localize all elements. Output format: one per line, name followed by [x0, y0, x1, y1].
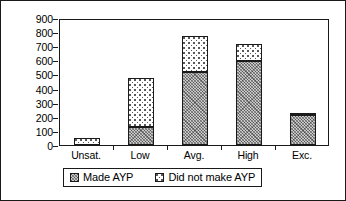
x-tick-label: High: [237, 149, 258, 161]
x-tick-mark: [221, 146, 222, 150]
bar-segment[interactable]: [236, 44, 262, 61]
y-tick-label: 700: [36, 42, 53, 53]
y-tick-label: 900: [36, 14, 53, 25]
plot-area: [59, 19, 329, 146]
bar-segment[interactable]: [182, 72, 208, 145]
y-tick-label: 400: [36, 84, 53, 95]
y-tick-mark: [53, 104, 58, 105]
bar-segment[interactable]: [290, 115, 316, 145]
x-tick-mark: [167, 146, 168, 150]
y-tick-mark: [53, 61, 58, 62]
did-not-make-ayp-swatch-icon: [155, 173, 164, 182]
x-tick-label: Exc.: [292, 149, 312, 161]
bar-segment[interactable]: [290, 113, 316, 115]
x-tick-label: Avg.: [184, 149, 204, 161]
y-tick-label: 100: [36, 127, 53, 138]
legend-item-did-not-make-ayp[interactable]: Did not make AYP: [155, 171, 255, 183]
legend-label-did-not-make-ayp: Did not make AYP: [168, 171, 255, 183]
chart-figure: 9008007006005004003002001000 Unsat.LowAv…: [0, 0, 346, 201]
y-tick-mark: [53, 33, 58, 34]
y-tick-label: 500: [36, 70, 53, 81]
y-tick-label: 800: [36, 28, 53, 39]
x-tick-mark: [275, 146, 276, 150]
x-tick-label: Unsat.: [71, 149, 101, 161]
y-axis: 9008007006005004003002001000: [1, 19, 53, 146]
bar-stack[interactable]: [74, 138, 100, 145]
y-tick-mark: [53, 118, 58, 119]
y-tick-mark: [53, 146, 58, 147]
bar-stack[interactable]: [290, 113, 316, 145]
y-tick-mark: [53, 19, 58, 20]
y-tick-label: 600: [36, 56, 53, 67]
x-tick-mark: [113, 146, 114, 150]
bar-segment[interactable]: [128, 78, 154, 127]
chart-legend: Made AYP Did not make AYP: [63, 168, 262, 187]
y-tick-mark: [53, 132, 58, 133]
legend-label-made-ayp: Made AYP: [83, 171, 133, 183]
bar-segment[interactable]: [236, 61, 262, 145]
y-tick-mark: [53, 90, 58, 91]
bar-stack[interactable]: [182, 36, 208, 145]
bar-segment[interactable]: [182, 36, 208, 72]
bar-segment[interactable]: [128, 127, 154, 145]
x-axis: Unsat.LowAvg.HighExc.: [59, 148, 329, 164]
y-tick-mark: [53, 47, 58, 48]
bar-segment[interactable]: [74, 138, 100, 145]
y-tick-label: 200: [36, 113, 53, 124]
x-tick-label: Low: [131, 149, 150, 161]
y-tick-label: 300: [36, 98, 53, 109]
y-tick-mark: [53, 75, 58, 76]
bar-stack[interactable]: [128, 78, 154, 145]
bar-stack[interactable]: [236, 44, 262, 145]
made-ayp-swatch-icon: [70, 173, 79, 182]
legend-item-made-ayp[interactable]: Made AYP: [70, 171, 133, 183]
